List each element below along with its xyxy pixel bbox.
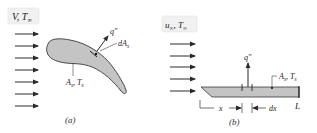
- panel-b: u∞, T∞ q" As, Ts L: [162, 16, 300, 127]
- surface-label-b: As, Ts: [278, 72, 297, 82]
- heat-flux-label-b: q": [244, 53, 252, 62]
- arbitrary-body-shape: [47, 39, 127, 94]
- free-stream-label-a: V, T∞: [8, 8, 39, 24]
- flow-label-sub: ∞: [27, 17, 32, 23]
- element-label-a: dAs: [118, 39, 129, 49]
- dx-dimension: [252, 103, 266, 113]
- heat-flux-arrow-icon: [97, 36, 108, 51]
- flow-arrows-b: [170, 44, 195, 91]
- surface-leader-line-b: [272, 76, 277, 88]
- convection-diagram: V, T∞ q" dAs As, Ts: [0, 0, 317, 133]
- flow-label-main: V, T: [12, 11, 29, 22]
- heat-flux-label-a: q": [110, 27, 118, 36]
- length-label: L: [294, 101, 300, 111]
- panel-a: V, T∞ q" dAs As, Ts: [8, 8, 129, 125]
- x-label: x: [218, 104, 223, 113]
- caption-a: (a): [65, 115, 76, 125]
- flat-plate: [201, 87, 299, 97]
- flow-arrows-a: [15, 34, 38, 106]
- free-stream-label-b: u∞, T∞: [162, 16, 197, 32]
- surface-label-a: As, Ts: [65, 78, 84, 88]
- dx-label: dx: [269, 104, 277, 113]
- caption-b: (b): [229, 117, 240, 127]
